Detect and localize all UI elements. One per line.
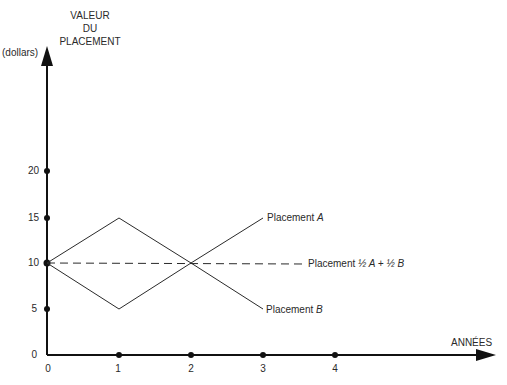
y-tick-label-15: 15 [19, 213, 39, 223]
x-axis-title: ANNÉES [451, 338, 492, 348]
x-tick-label-1: 1 [112, 364, 124, 374]
series-placement-mix [47, 263, 304, 264]
y-axis-title-line2: DU [35, 23, 145, 35]
x-tick-dot-2 [188, 352, 194, 358]
legend-placement-mix: Placement ½ A + ½ B [308, 259, 404, 269]
y-tick-label-20: 20 [19, 166, 39, 176]
legend-placement-a: Placement A [267, 213, 324, 223]
x-tick-label-2: 2 [185, 364, 197, 374]
x-tick-label-4: 4 [329, 364, 341, 374]
x-axis-arrow-icon [476, 349, 496, 361]
y-tick-label-10: 10 [19, 258, 39, 268]
y-tick-label-0: 0 [17, 350, 37, 360]
legend-placement-b: Placement B [266, 305, 323, 315]
y-tick-dot-5 [44, 306, 50, 312]
y-tick-dot-20 [44, 168, 50, 174]
y-axis-unit: (dollars) [2, 48, 38, 58]
x-tick-dot-1 [116, 352, 122, 358]
x-tick-label-3: 3 [257, 364, 269, 374]
chart-canvas [0, 0, 507, 385]
y-axis-title-line3: PLACEMENT [35, 36, 145, 48]
y-axis-title-line1: VALEUR [35, 10, 145, 22]
y-tick-dot-15 [44, 215, 50, 221]
x-tick-dot-4 [332, 352, 338, 358]
x-tick-label-0: 0 [42, 364, 54, 374]
y-axis-arrow-icon [41, 46, 53, 66]
y-tick-label-5: 5 [17, 304, 37, 314]
x-tick-dot-3 [260, 352, 266, 358]
